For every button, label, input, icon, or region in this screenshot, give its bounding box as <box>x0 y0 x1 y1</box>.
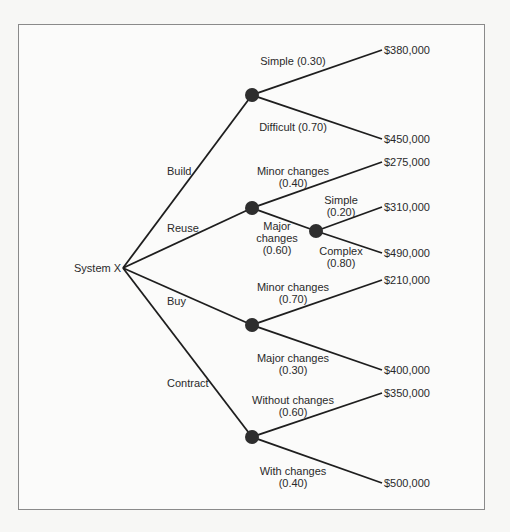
outcome-contract-without: $350,000 <box>384 387 430 399</box>
prob-label-reuse-major-2: changes <box>256 232 298 244</box>
outcome-buy-major: $400,000 <box>384 364 430 376</box>
prob-label-reuse-minor-p: (0.40) <box>279 177 308 189</box>
prob-label-reuse-minor: Minor changes <box>257 165 330 177</box>
chance-node-buy <box>245 318 259 332</box>
prob-label-major-complex: Complex <box>319 245 363 257</box>
outcome-reuse-major-simple: $310,000 <box>384 201 430 213</box>
branch-label-contract: Contract <box>167 377 209 389</box>
prob-label-contract-with: With changes <box>260 465 327 477</box>
decision-tree-diagram: System X Build Reuse Buy Contract Simple… <box>0 0 510 532</box>
prob-label-buy-minor-p: (0.70) <box>279 293 308 305</box>
prob-label-buy-minor: Minor changes <box>257 281 330 293</box>
root-label: System X <box>74 262 122 274</box>
prob-label-contract-without: Without changes <box>252 394 334 406</box>
branch-label-reuse: Reuse <box>167 222 199 234</box>
prob-label-build-difficult: Difficult (0.70) <box>259 121 327 133</box>
branch-label-buy: Buy <box>167 295 186 307</box>
prob-label-contract-with-p: (0.40) <box>279 477 308 489</box>
chance-node-reuse <box>245 201 259 215</box>
outcome-buy-minor: $210,000 <box>384 274 430 286</box>
outcome-reuse-minor: $275,000 <box>384 156 430 168</box>
prob-label-buy-major: Major changes <box>257 352 330 364</box>
prob-label-contract-without-p: (0.60) <box>279 406 308 418</box>
prob-label-build-simple: Simple (0.30) <box>260 55 325 67</box>
prob-label-major-simple: Simple <box>324 194 358 206</box>
chance-node-reuse_major <box>309 224 323 238</box>
outcome-build-difficult: $450,000 <box>384 133 430 145</box>
prob-label-buy-major-p: (0.30) <box>279 364 308 376</box>
prob-label-reuse-major-p: (0.60) <box>263 244 292 256</box>
chance-node-contract <box>245 430 259 444</box>
prob-label-major-simple-p: (0.20) <box>327 206 356 218</box>
chance-node-build <box>245 88 259 102</box>
outcome-contract-with: $500,000 <box>384 477 430 489</box>
outcome-reuse-major-complex: $490,000 <box>384 247 430 259</box>
prob-label-major-complex-p: (0.80) <box>327 257 356 269</box>
branch-label-build: Build <box>167 165 191 177</box>
prob-label-reuse-major: Major <box>263 220 291 232</box>
outcome-build-simple: $380,000 <box>384 44 430 56</box>
